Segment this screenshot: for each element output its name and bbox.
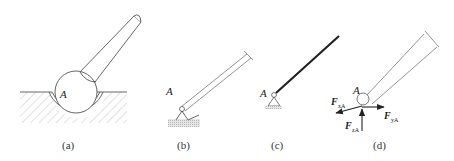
figure-canvas: A (a) A (b) A (c): [0, 0, 454, 161]
force-fza: F zA: [344, 109, 362, 133]
force-symbol: F: [344, 120, 352, 131]
point-label-a: A: [59, 88, 67, 100]
panel-d: A F xA F yA F zA (d): [330, 31, 439, 152]
rod: [80, 15, 141, 82]
force-fya: F yA: [362, 107, 399, 123]
member-line: [276, 36, 339, 93]
force-symbol: F: [330, 96, 338, 107]
panel-b: A (b): [165, 51, 253, 152]
force-subscript: yA: [391, 117, 399, 123]
caption-a: (a): [62, 139, 75, 152]
caption-b: (b): [177, 139, 190, 152]
pin-support: [265, 93, 282, 109]
panel-c: A (c): [259, 36, 339, 152]
panel-a: A (a): [20, 15, 141, 152]
caption-c: (c): [271, 139, 284, 152]
rod: [181, 51, 253, 111]
rod: [367, 31, 439, 104]
force-subscript: zA: [352, 127, 360, 133]
force-symbol: F: [383, 110, 391, 121]
point-label-a: A: [352, 84, 360, 96]
ground-patch: [168, 119, 200, 127]
force-subscript: xA: [338, 103, 346, 109]
point-label-a: A: [259, 87, 267, 99]
caption-d: (d): [373, 139, 386, 152]
point-label-a: A: [165, 85, 173, 97]
